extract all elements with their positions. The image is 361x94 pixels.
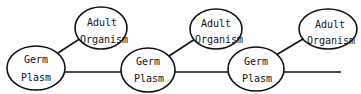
germ-plasm-3-line1: Germ bbox=[244, 56, 268, 67]
edge-germ1-adult1 bbox=[58, 38, 81, 53]
germ-plasm-1-line1: Germ bbox=[24, 54, 48, 65]
node-adult-organism-3: Adult Organism bbox=[299, 9, 357, 49]
adult-organism-1-line2: Organism bbox=[80, 34, 128, 45]
node-germ-plasm-2: Germ Plasm bbox=[121, 48, 175, 92]
node-adult-organism-2: Adult Organism bbox=[190, 9, 243, 49]
edge-germ2-adult2 bbox=[169, 39, 195, 56]
adult-organism-3-line2: Organism bbox=[307, 35, 355, 46]
adult-organism-1-line1: Adult bbox=[87, 17, 117, 28]
germ-plasm-diagram: Germ Plasm Adult Organism Germ Plasm Adu… bbox=[0, 0, 361, 94]
adult-organism-3-line1: Adult bbox=[315, 19, 345, 30]
germ-plasm-1-ellipse bbox=[7, 46, 65, 90]
germ-plasm-3-ellipse bbox=[228, 47, 284, 91]
germ-plasm-2-ellipse bbox=[121, 48, 175, 92]
adult-organism-2-line2: Organism bbox=[195, 34, 243, 45]
node-germ-plasm-3: Germ Plasm bbox=[228, 47, 284, 91]
germ-plasm-1-line2: Plasm bbox=[21, 72, 51, 83]
node-adult-organism-1: Adult Organism bbox=[75, 7, 128, 49]
germ-plasm-2-line1: Germ bbox=[136, 56, 160, 67]
adult-organism-2-line1: Adult bbox=[201, 18, 231, 29]
germ-plasm-3-line2: Plasm bbox=[242, 73, 272, 84]
germ-plasm-2-line2: Plasm bbox=[134, 73, 164, 84]
edge-germ3-adult3 bbox=[276, 39, 303, 55]
node-germ-plasm-1: Germ Plasm bbox=[7, 46, 65, 90]
